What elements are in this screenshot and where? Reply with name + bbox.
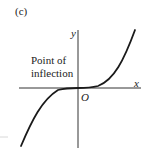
annotation-line-1: Point of: [31, 54, 73, 67]
plot-area: [0, 0, 146, 162]
annotation-line-2: inflection: [31, 67, 73, 80]
origin-label: O: [81, 91, 89, 103]
inflection-annotation: Point of inflection: [31, 54, 73, 80]
x-axis-label: x: [134, 77, 139, 89]
y-axis-label: y: [71, 27, 76, 39]
